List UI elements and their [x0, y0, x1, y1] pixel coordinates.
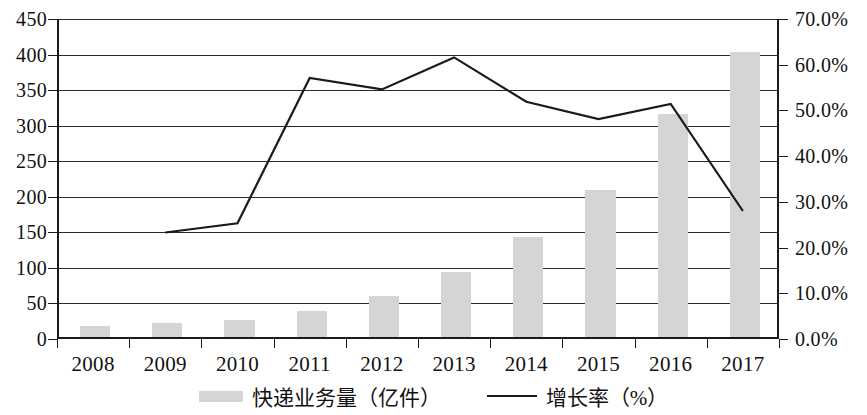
bar-2011 [297, 311, 327, 337]
left-axis-tick-label: 100 [16, 256, 47, 279]
legend-label-bar: 快递业务量（亿件） [252, 381, 441, 411]
bar-2008 [80, 326, 110, 337]
x-axis-label-2009: 2009 [144, 352, 187, 377]
right-axis-tick-label: 10.0% [795, 282, 848, 305]
x-axis-tick-mark [562, 339, 563, 348]
left-axis-tick-mark [48, 161, 57, 162]
x-axis-tick-mark [418, 339, 419, 348]
left-y-axis: 050100150200250300350400450 [0, 0, 57, 360]
bar-2014 [513, 237, 543, 337]
right-axis-tick-mark [779, 19, 788, 20]
x-axis-label-2015: 2015 [577, 352, 620, 377]
left-axis-tick-mark [48, 19, 57, 20]
bar-2009 [152, 323, 182, 337]
bar-2012 [369, 296, 399, 337]
right-axis-tick-label: 0.0% [795, 328, 838, 351]
left-axis-tick-label: 300 [16, 114, 47, 137]
right-axis-tick-label: 40.0% [795, 145, 848, 168]
x-axis-tick-mark [635, 339, 636, 348]
x-axis-tick-mark [707, 339, 708, 348]
line-swatch-icon [487, 395, 537, 397]
right-axis-tick-label: 30.0% [795, 190, 848, 213]
bar-2013 [441, 272, 471, 337]
left-axis-tick-mark [48, 232, 57, 233]
x-axis-label-2010: 2010 [216, 352, 259, 377]
left-axis-tick-mark [48, 126, 57, 127]
gridline [59, 55, 777, 56]
right-axis-tick-mark [779, 110, 788, 111]
right-axis-tick-mark [779, 65, 788, 66]
x-axis-label-2013: 2013 [432, 352, 475, 377]
legend: 快递业务量（亿件） 增长率（%） [0, 381, 867, 411]
legend-label-line: 增长率（%） [546, 381, 669, 411]
left-axis-tick-label: 450 [16, 8, 47, 31]
left-axis-tick-label: 400 [16, 43, 47, 66]
plot-area [57, 19, 779, 339]
left-axis-tick-mark [48, 197, 57, 198]
bar-2016 [658, 114, 688, 337]
left-axis-tick-label: 250 [16, 150, 47, 173]
right-axis-tick-label: 60.0% [795, 53, 848, 76]
x-axis-tick-mark [779, 339, 780, 348]
left-axis-tick-mark [48, 90, 57, 91]
left-axis-tick-label: 350 [16, 79, 47, 102]
bar-swatch-icon [199, 391, 243, 402]
x-axis-tick-mark [346, 339, 347, 348]
right-axis-tick-mark [779, 156, 788, 157]
x-axis-label-2008: 2008 [71, 352, 114, 377]
right-axis-tick-mark [779, 202, 788, 203]
x-axis-tick-mark [57, 339, 58, 348]
bar-2010 [224, 320, 254, 337]
x-axis-tick-mark [490, 339, 491, 348]
left-axis-tick-mark [48, 339, 57, 340]
gridline [59, 19, 777, 20]
x-axis-tick-mark [129, 339, 130, 348]
right-axis-tick-mark [779, 248, 788, 249]
right-axis-tick-mark [779, 339, 788, 340]
x-axis-label-2012: 2012 [360, 352, 403, 377]
left-axis-tick-label: 200 [16, 185, 47, 208]
x-axis-label-2016: 2016 [649, 352, 692, 377]
right-axis-tick-label: 70.0% [795, 8, 848, 31]
left-axis-tick-mark [48, 268, 57, 269]
legend-item-bar: 快递业务量（亿件） [199, 381, 441, 411]
x-axis-tick-mark [201, 339, 202, 348]
x-axis-label-2014: 2014 [505, 352, 548, 377]
chart-page: 050100150200250300350400450 0.0%10.0%20.… [0, 0, 867, 415]
right-y-axis: 0.0%10.0%20.0%30.0%40.0%50.0%60.0%70.0% [779, 0, 867, 360]
x-axis-tick-mark [274, 339, 275, 348]
bar-2017 [730, 52, 760, 337]
right-axis-tick-label: 20.0% [795, 236, 848, 259]
legend-item-line: 增长率（%） [487, 381, 669, 411]
left-axis-tick-label: 50 [26, 292, 47, 315]
left-axis-tick-label: 0 [37, 328, 47, 351]
x-axis-label-2011: 2011 [288, 352, 330, 377]
right-axis-tick-mark [779, 293, 788, 294]
gridline [59, 90, 777, 91]
right-axis-tick-label: 50.0% [795, 99, 848, 122]
left-axis-tick-mark [48, 55, 57, 56]
left-axis-tick-mark [48, 303, 57, 304]
bar-2015 [585, 190, 615, 337]
x-axis-label-2017: 2017 [721, 352, 764, 377]
left-axis-tick-label: 150 [16, 221, 47, 244]
